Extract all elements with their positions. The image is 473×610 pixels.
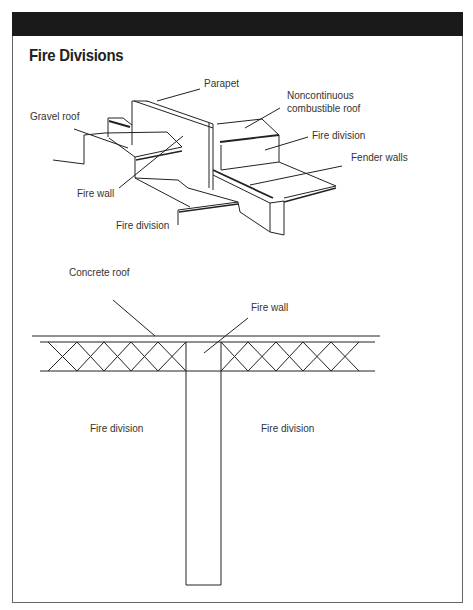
label-fire-division-right: Fire division — [312, 130, 365, 141]
label-fire-division-bottom: Fire division — [116, 220, 169, 231]
labels: Parapet Noncontinuous combustible roof G… — [30, 78, 408, 434]
label-parapet: Parapet — [204, 78, 239, 89]
label-fire-division-left: Fire division — [90, 423, 143, 434]
label-noncontinuous-1: Noncontinuous — [287, 90, 354, 101]
label-fire-wall-top: Fire wall — [77, 188, 114, 199]
label-concrete-roof: Concrete roof — [69, 267, 130, 278]
bottom-section-diagram — [32, 300, 380, 585]
label-fire-division-right-bottom: Fire division — [261, 423, 314, 434]
label-gravel-roof: Gravel roof — [30, 111, 80, 122]
fire-divisions-diagram: Parapet Noncontinuous combustible roof G… — [0, 0, 473, 610]
label-noncontinuous-2: combustible roof — [287, 103, 361, 114]
label-fender-walls: Fender walls — [351, 152, 408, 163]
label-fire-wall-bottom: Fire wall — [251, 302, 288, 313]
